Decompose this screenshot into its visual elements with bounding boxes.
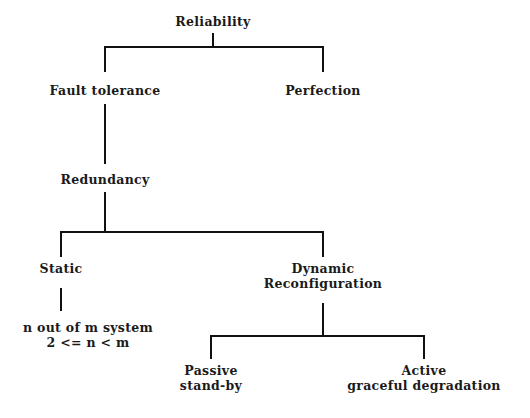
node-dynamic-reconfiguration: Dynamic Reconfiguration <box>264 261 382 291</box>
node-static: Static <box>40 261 83 276</box>
diagram-canvas: Reliability Fault tolerance Perfection R… <box>0 0 530 418</box>
node-dynamic-label-line2: Reconfiguration <box>264 276 382 291</box>
connector-static-stem <box>60 288 62 311</box>
node-redundancy-label: Redundancy <box>60 172 149 187</box>
connector-level1-right-drop <box>322 46 324 72</box>
node-active-label-line2: graceful degradation <box>347 378 500 393</box>
node-passive-label-line2: stand-by <box>180 378 242 393</box>
node-redundancy: Redundancy <box>60 172 149 187</box>
connector-level1-bar <box>104 46 324 48</box>
node-fault-tolerance-label: Fault tolerance <box>50 83 161 98</box>
node-n-out-of-m-label-line2: 2 <= n < m <box>23 335 153 350</box>
node-reliability-label: Reliability <box>175 14 250 29</box>
node-n-out-of-m-label-line1: n out of m system <box>23 320 153 335</box>
node-perfection-label: Perfection <box>285 83 361 98</box>
connector-dynamic-stem <box>322 303 324 336</box>
node-fault-tolerance: Fault tolerance <box>50 83 161 98</box>
connector-level2-left-drop <box>60 231 62 257</box>
node-static-label: Static <box>40 261 83 276</box>
connector-level1-left-drop <box>104 46 106 72</box>
node-passive-label-line1: Passive <box>184 363 237 378</box>
connector-redundancy-stem <box>104 192 106 232</box>
connector-level2-bar <box>60 231 324 233</box>
node-perfection: Perfection <box>285 83 361 98</box>
connector-level3-left-drop <box>210 335 212 359</box>
connector-level2-right-drop <box>322 231 324 257</box>
node-passive-standby: Passive stand-by <box>180 363 242 393</box>
node-active-graceful-degradation: Active graceful degradation <box>347 363 500 393</box>
connector-level3-right-drop <box>423 335 425 359</box>
node-active-label-line1: Active <box>402 363 447 378</box>
node-dynamic-label-line1: Dynamic <box>292 261 355 276</box>
connector-fault-tolerance-to-redundancy <box>104 104 106 164</box>
node-reliability: Reliability <box>175 14 250 29</box>
node-n-out-of-m-system: n out of m system 2 <= n < m <box>23 320 153 350</box>
connector-level3-bar <box>210 335 424 337</box>
